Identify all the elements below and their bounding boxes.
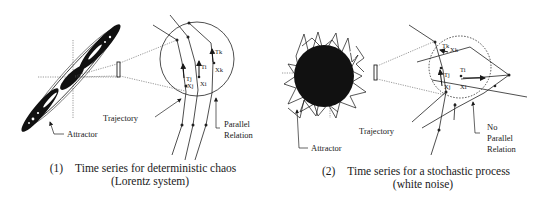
caption-stochastic: (2)Time series for a stochastic process … bbox=[302, 165, 530, 191]
caption-subtitle: (Lorentz system) bbox=[38, 175, 248, 188]
caption-deterministic: (1)Time series for deterministic chaos (… bbox=[38, 162, 248, 188]
point-label-xi: Xi bbox=[200, 80, 207, 87]
point-label-xj: Xj bbox=[187, 82, 194, 89]
tangent-label-tj: Tj bbox=[186, 75, 192, 82]
tangent-label-ti: Ti bbox=[460, 66, 466, 73]
relation-label-line1: No bbox=[487, 122, 497, 132]
panel-deterministic: Tj Xj Ti Xi Tk Xk Attractor Trajectory P… bbox=[17, 15, 253, 160]
caption-number: (1) bbox=[50, 162, 63, 175]
caption-subtitle: (white noise) bbox=[302, 178, 530, 191]
relation-label-line3: Relation bbox=[487, 144, 517, 154]
attractor-label: Attractor bbox=[311, 143, 342, 153]
point-label-xj: Xj bbox=[444, 83, 451, 90]
relation-label-line2: Relation bbox=[224, 130, 254, 140]
caption-number: (2) bbox=[322, 165, 335, 178]
tangent-label-tk: Tk bbox=[215, 48, 223, 55]
caption-title: Time series for a stochastic process bbox=[347, 165, 510, 177]
trajectories-parallel bbox=[153, 15, 213, 160]
relation-label-line1: Parallel bbox=[224, 119, 251, 129]
trajectory-label: Trajectory bbox=[359, 126, 395, 136]
point-label-xk: Xk bbox=[215, 66, 224, 73]
point-label-xi: Xi bbox=[460, 83, 467, 90]
tangent-vectors bbox=[183, 49, 213, 78]
leader-lines bbox=[297, 102, 480, 148]
point-label-xk: Xk bbox=[450, 46, 459, 53]
noise-attractor bbox=[284, 32, 366, 118]
relation-label-line2: Parallel bbox=[487, 133, 514, 143]
vector-labels: Tj Xj Ti Xi Tk Xk bbox=[186, 48, 224, 89]
neighborhood-circle bbox=[160, 22, 234, 96]
trajectory-label: Trajectory bbox=[103, 113, 139, 123]
tangent-label-tk: Tk bbox=[442, 42, 450, 49]
caption-title: Time series for deterministic chaos bbox=[75, 162, 236, 174]
tangent-label-tj: Tj bbox=[444, 71, 450, 78]
tangent-label-ti: Ti bbox=[201, 63, 207, 70]
panel-stochastic: Tk Xk Tj Xj Ti Xi Attractor Trajectory N… bbox=[282, 25, 527, 155]
attractor-label: Attractor bbox=[67, 129, 98, 139]
